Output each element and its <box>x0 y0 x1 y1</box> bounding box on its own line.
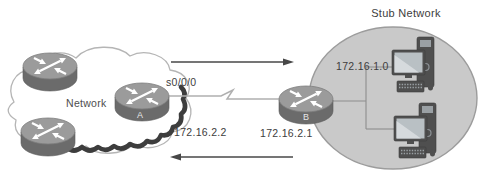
diagram-canvas <box>0 0 484 186</box>
router-bottom-left-icon <box>21 118 75 156</box>
network-topology-diagram: Stub Network Network s0/0/0 172.16.2.2 1… <box>0 0 484 186</box>
ip-label-b-side: 172.16.2.1 <box>260 128 313 140</box>
route-arrow-left <box>170 154 293 161</box>
router-top-left-icon <box>23 53 77 91</box>
ip-label-a-side: 172.16.2.2 <box>174 127 227 139</box>
cloud-label: Network <box>66 98 107 110</box>
arrow-right-icon <box>283 59 294 66</box>
stub-network-ellipse <box>309 27 477 169</box>
arrow-left-icon <box>170 154 181 161</box>
route-arrow-right <box>171 59 294 66</box>
stub-network-title: Stub Network <box>360 7 452 19</box>
interface-label: s0/0/0 <box>166 77 196 89</box>
router-b-label: B <box>299 112 313 122</box>
router-a-label: A <box>133 110 147 120</box>
stub-subnet-label: 172.16.1.0 <box>336 61 389 73</box>
